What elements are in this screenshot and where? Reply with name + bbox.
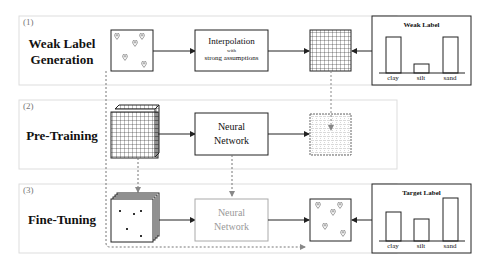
stage-2-label: Pre-Training [22, 128, 102, 144]
interpolation-label: Interpolation with strong assumptions [195, 36, 268, 63]
nn2-line2: Network [195, 134, 268, 148]
weak-tick-sand: sand [435, 74, 465, 82]
target-tick-clay: clay [378, 242, 408, 250]
nn3-line2: Network [195, 220, 268, 234]
stage-3-number: (3) [23, 185, 34, 195]
target-label-title: Target Label [372, 189, 471, 197]
weak-tick-silt: silt [406, 74, 436, 82]
dense-grid [310, 30, 351, 71]
neural-network-label-3: Neural Network [195, 206, 268, 234]
interpolation-line3: strong assumptions [195, 54, 268, 63]
interpolation-line1: Interpolation [195, 36, 268, 47]
sparse-stack [111, 199, 153, 242]
predicted-grid [310, 114, 351, 155]
weak-tick-clay: clay [378, 74, 408, 82]
interpolation-line2: with [195, 47, 268, 54]
target-tick-sand: sand [435, 242, 465, 250]
neural-network-label-2: Neural Network [195, 120, 268, 148]
stage-1-number: (1) [23, 17, 34, 27]
nn3-line1: Neural [195, 206, 268, 220]
stage-2-number: (2) [23, 101, 34, 111]
stacked-grid-cube [111, 105, 159, 158]
stage-3-label: Fine-Tuning [22, 212, 102, 228]
target-tick-silt: silt [406, 242, 436, 250]
nn2-line1: Neural [195, 120, 268, 134]
weak-label-title: Weak Label [372, 21, 471, 29]
stage-1-label-line1: Weak Label [22, 36, 102, 52]
stage-1-label-line2: Generation [22, 52, 102, 68]
stage-1-label: Weak Label Generation [22, 36, 102, 68]
